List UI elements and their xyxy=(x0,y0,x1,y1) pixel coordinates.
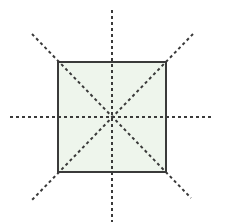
diagram-canvas xyxy=(0,0,226,223)
symmetry-diagram xyxy=(0,0,226,223)
lines-of-symmetry xyxy=(10,10,214,222)
